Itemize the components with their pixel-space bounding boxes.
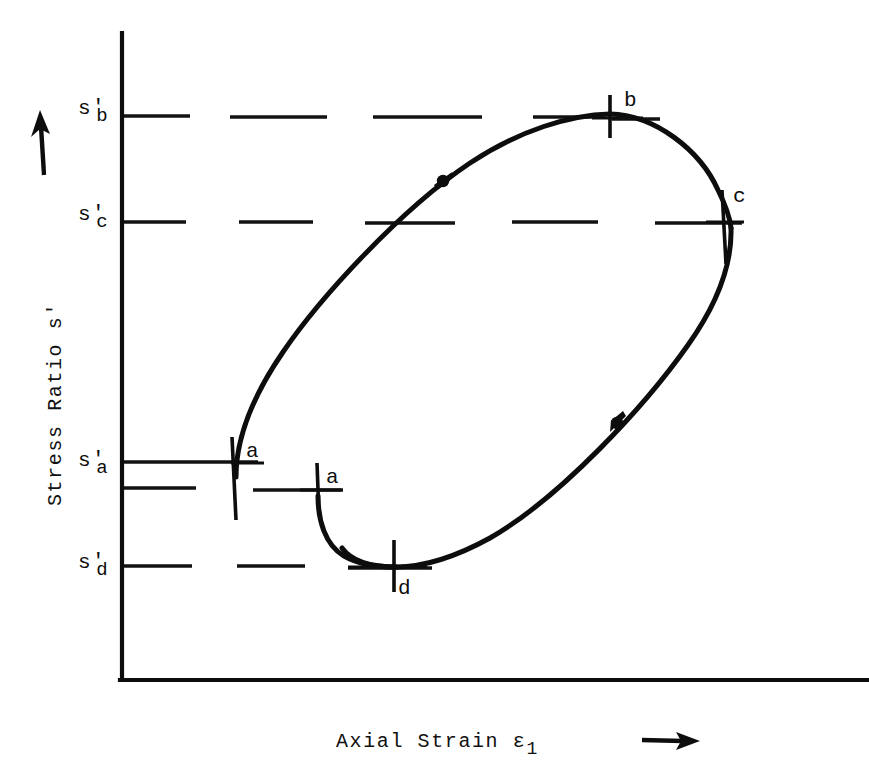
branch-c-to-d — [396, 228, 731, 567]
branch-b-to-c — [610, 114, 731, 228]
figure-canvas — [0, 0, 869, 782]
x-axis-right-arrow-icon — [642, 732, 700, 750]
point-label-a1: a — [246, 441, 259, 462]
x-axis-title-symbol: ε — [513, 730, 527, 753]
y-tick-sc-base: s — [78, 203, 91, 226]
x-axis-title-main: Axial Strain — [336, 730, 513, 753]
y-tick-sb-sub: b — [96, 105, 108, 127]
hysteresis-loop-curve — [236, 114, 731, 567]
x-axis-title-subscript: 1 — [526, 739, 538, 759]
point-marker-d — [348, 540, 427, 592]
point-label-c: c — [733, 186, 746, 207]
lead-in-curve — [318, 496, 396, 567]
branch-a-to-b — [236, 114, 610, 477]
y-tick-sd-sub: d — [96, 559, 108, 581]
branch-a2-to-d — [318, 496, 396, 567]
y-tick-sa-base: s — [78, 449, 91, 472]
flow-arrow-a-to-b-icon — [434, 172, 452, 190]
point-label-d: d — [398, 578, 411, 599]
figure-root: s'b s'c s'a s'd a a b c d Axial Strain ε… — [0, 0, 869, 782]
y-axis-title: Stress Ratio s' — [44, 302, 67, 506]
x-axis-title: Axial Strain ε1 — [336, 730, 539, 753]
y-tick-sa-sub: a — [96, 457, 108, 479]
axes-group — [120, 33, 869, 680]
reference-line-sc — [124, 222, 742, 223]
y-tick-label-sb: s'b — [78, 98, 116, 119]
y-tick-label-sd: s'd — [78, 552, 116, 573]
y-axis-up-arrow-icon — [31, 110, 50, 175]
point-label-b: b — [624, 90, 637, 111]
y-tick-sc-sub: c — [96, 211, 108, 233]
y-tick-label-sa: s'a — [78, 450, 116, 471]
y-tick-sd-base: s — [78, 551, 91, 574]
y-tick-label-sc: s'c — [78, 204, 116, 225]
point-label-a2: a — [326, 467, 339, 488]
y-tick-sb-base: s — [78, 97, 91, 120]
